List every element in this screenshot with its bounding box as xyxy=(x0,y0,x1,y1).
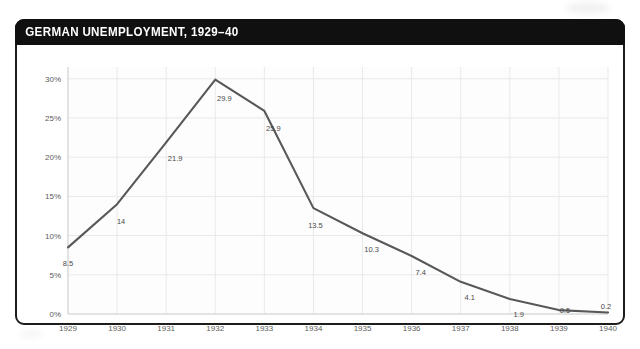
x-tick-label: 1930 xyxy=(108,324,126,333)
x-tick-label: 1936 xyxy=(403,324,421,333)
x-tick-label: 1929 xyxy=(59,324,77,333)
chart-card: GERMAN UNEMPLOYMENT, 1929–40 0%5%10%15%2… xyxy=(15,19,625,325)
x-tick-label: 1938 xyxy=(501,324,519,333)
page-title: GERMAN UNEMPLOYMENT, 1929–40 xyxy=(15,25,238,39)
x-tick-label: 1940 xyxy=(599,324,617,333)
line-chart-svg xyxy=(17,45,623,323)
x-tick-label: 1934 xyxy=(305,324,323,333)
scan-smudge-bottom-left xyxy=(18,330,44,338)
x-tick-label: 1932 xyxy=(206,324,224,333)
plot-background xyxy=(68,67,608,314)
x-tick-label: 1939 xyxy=(550,324,568,333)
chart-title-bar: GERMAN UNEMPLOYMENT, 1929–40 xyxy=(15,19,625,45)
x-tick-label: 1931 xyxy=(157,324,175,333)
figure-canvas: GERMAN UNEMPLOYMENT, 1929–40 0%5%10%15%2… xyxy=(0,0,640,349)
x-tick-label: 1935 xyxy=(354,324,372,333)
scan-smudge-top-right xyxy=(566,2,610,14)
x-tick-label: 1937 xyxy=(452,324,470,333)
plot-area: 0%5%10%15%20%25%30% 19291930193119321933… xyxy=(17,45,623,323)
x-tick-label: 1933 xyxy=(255,324,273,333)
